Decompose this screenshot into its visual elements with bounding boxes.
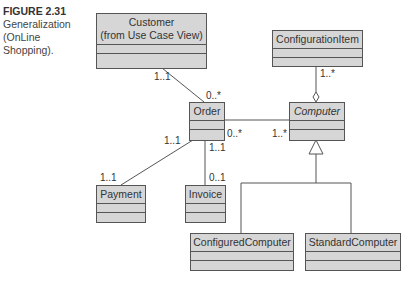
operations-compartment [97,213,145,221]
class-name: Invoice [186,186,225,204]
operations-compartment [186,213,225,221]
class-customer[interactable]: Customer (from Use Case View) [96,13,207,69]
class-name: StandardComputer [306,234,400,252]
operations-compartment [290,130,344,138]
class-name: ConfigurationItem [273,31,362,49]
multiplicity: 1..1 [100,172,117,183]
class-name: Order [190,103,224,121]
attributes-compartment [186,204,225,213]
multiplicity: 1..* [320,68,335,79]
class-name: Customer (from Use Case View) [97,14,206,45]
class-name: ConfiguredComputer [191,234,293,252]
multiplicity: 1..1 [164,135,181,146]
attributes-compartment [273,49,362,58]
multiplicity: 0..* [227,128,242,139]
class-configuration-item[interactable]: ConfigurationItem [272,30,363,67]
multiplicity: 1..1 [154,71,171,82]
multiplicity: 0..1 [209,172,226,183]
class-name-line: Customer [129,16,175,28]
operations-compartment [273,58,362,66]
class-order[interactable]: Order [189,102,225,141]
attributes-compartment [306,252,400,261]
multiplicity: 1..* [272,128,287,139]
class-payment[interactable]: Payment [96,185,146,223]
operations-compartment [306,261,400,269]
operations-compartment [190,130,224,138]
class-name-line: (from Use Case View) [100,29,203,41]
attributes-compartment [97,45,206,54]
class-standard-computer[interactable]: StandardComputer [305,233,401,271]
class-invoice[interactable]: Invoice [185,185,226,223]
multiplicity: 1..1 [209,142,226,153]
class-computer[interactable]: Computer [289,102,345,141]
class-configured-computer[interactable]: ConfiguredComputer [190,233,294,271]
multiplicity: 0..* [206,90,221,101]
class-name: Payment [97,186,145,204]
operations-compartment [191,261,293,269]
attributes-compartment [290,121,344,130]
attributes-compartment [97,204,145,213]
attributes-compartment [190,121,224,130]
class-name: Computer [290,103,344,121]
attributes-compartment [191,252,293,261]
operations-compartment [97,54,206,62]
